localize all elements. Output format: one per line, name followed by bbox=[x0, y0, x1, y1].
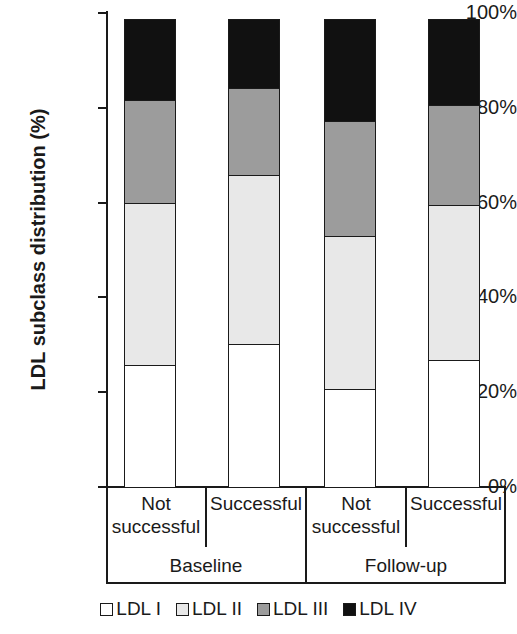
bar-segment-ldl-iv[interactable] bbox=[228, 19, 280, 90]
bar-segment-ldl-i[interactable] bbox=[124, 365, 176, 488]
bar-segment-ldl-iv[interactable] bbox=[428, 19, 480, 107]
legend-label: LDL IV bbox=[359, 598, 416, 620]
plot-area bbox=[106, 13, 504, 487]
stacked-bar[interactable] bbox=[124, 13, 176, 487]
category-label: Not successful bbox=[306, 490, 406, 547]
group-label: Follow-up bbox=[306, 548, 506, 584]
bar-segment-ldl-ii[interactable] bbox=[228, 175, 280, 346]
bar-segment-ldl-ii[interactable] bbox=[324, 236, 376, 390]
legend-label: LDL III bbox=[273, 598, 328, 620]
bar-segment-ldl-iv[interactable] bbox=[324, 19, 376, 123]
bar-segment-ldl-iii[interactable] bbox=[324, 121, 376, 237]
y-axis-title: LDL subclass distribution (%) bbox=[27, 30, 50, 470]
category-label: Successful bbox=[206, 490, 306, 547]
chart-legend: LDL ILDL IILDL IIILDL IV bbox=[0, 598, 517, 620]
legend-item[interactable]: LDL IV bbox=[343, 598, 416, 620]
category-axis: Not successfulSuccessfulNot successfulSu… bbox=[106, 488, 506, 585]
bar-segment-ldl-i[interactable] bbox=[324, 389, 376, 489]
chart-figure: LDL subclass distribution (%) 0%20%40%60… bbox=[0, 0, 517, 634]
bar-segment-ldl-i[interactable] bbox=[428, 360, 480, 488]
legend-label: LDL I bbox=[116, 598, 161, 620]
stacked-bar[interactable] bbox=[228, 13, 280, 487]
legend-label: LDL II bbox=[192, 598, 242, 620]
legend-swatch-icon bbox=[343, 603, 356, 616]
legend-swatch-icon bbox=[176, 603, 189, 616]
bar-segment-ldl-iii[interactable] bbox=[428, 105, 480, 207]
category-label: Not successful bbox=[106, 490, 206, 547]
bar-segment-ldl-ii[interactable] bbox=[124, 203, 176, 367]
bar-segment-ldl-i[interactable] bbox=[228, 344, 280, 489]
bar-segment-ldl-ii[interactable] bbox=[428, 205, 480, 361]
legend-swatch-icon bbox=[100, 603, 113, 616]
stacked-bar[interactable] bbox=[428, 13, 480, 487]
bar-segment-ldl-iii[interactable] bbox=[124, 100, 176, 204]
bar-segment-ldl-iii[interactable] bbox=[228, 88, 280, 176]
legend-swatch-icon bbox=[257, 603, 270, 616]
legend-item[interactable]: LDL II bbox=[176, 598, 242, 620]
group-label: Baseline bbox=[106, 548, 306, 584]
stacked-bar[interactable] bbox=[324, 13, 376, 487]
legend-item[interactable]: LDL III bbox=[257, 598, 328, 620]
legend-item[interactable]: LDL I bbox=[100, 598, 161, 620]
bar-segment-ldl-iv[interactable] bbox=[124, 19, 176, 102]
category-label: Successful bbox=[406, 490, 506, 547]
